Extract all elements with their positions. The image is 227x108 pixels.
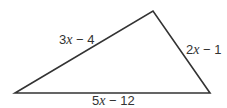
base-label: 5x − 12 [92,94,135,108]
left-side-label: 3x − 4 [59,33,95,47]
right-side-constant: − 1 [199,42,221,57]
triangle-shape [15,11,210,93]
left-side-constant: − 4 [72,32,94,47]
base-constant: − 12 [105,93,134,108]
right-side-label: 2x − 1 [186,43,222,57]
